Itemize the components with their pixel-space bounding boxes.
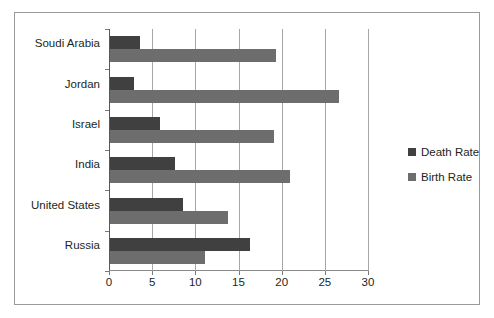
x-axis-tick: [109, 271, 110, 275]
y-axis-category-label: United States: [31, 199, 100, 211]
chart-frame: 051015202530 Soudi ArabiaJordanIsraelInd…: [14, 12, 480, 305]
bar: [110, 238, 250, 251]
legend-swatch-icon: [408, 148, 416, 156]
x-axis-tick-label: 0: [89, 276, 129, 288]
y-axis-line: [109, 29, 110, 271]
bar: [110, 211, 228, 224]
chart-legend: Death RateBirth Rate: [408, 146, 479, 196]
bar: [110, 251, 205, 264]
y-axis-category-label: Soudi Arabia: [35, 37, 100, 49]
y-axis-tick: [105, 69, 109, 70]
x-axis-tick: [368, 271, 369, 275]
x-axis-tick-label: 30: [348, 276, 388, 288]
legend-item[interactable]: Birth Rate: [408, 171, 479, 183]
y-axis-tick: [105, 110, 109, 111]
x-axis-tick-label: 25: [305, 276, 345, 288]
y-axis-category-label: Israel: [72, 118, 100, 130]
bar: [110, 198, 183, 211]
gridline: [152, 29, 153, 271]
x-axis-tick: [239, 271, 240, 275]
y-axis-category-label: India: [75, 158, 100, 170]
legend-item[interactable]: Death Rate: [408, 146, 479, 158]
legend-label: Death Rate: [421, 146, 479, 158]
x-axis-tick-label: 20: [262, 276, 302, 288]
bar: [110, 157, 175, 170]
bar: [110, 117, 160, 130]
x-axis-tick-label: 15: [219, 276, 259, 288]
legend-swatch-icon: [408, 173, 416, 181]
x-axis-tick: [152, 271, 153, 275]
bar: [110, 130, 274, 143]
gridline: [195, 29, 196, 271]
y-axis-tick: [105, 231, 109, 232]
bar: [110, 170, 290, 183]
bar: [110, 77, 134, 90]
x-axis-tick: [325, 271, 326, 275]
y-axis-tick: [105, 271, 109, 272]
gridline: [368, 29, 369, 271]
gridline: [325, 29, 326, 271]
x-axis-tick-label: 5: [132, 276, 172, 288]
x-axis-tick: [282, 271, 283, 275]
y-axis-category-label: Russia: [65, 239, 100, 251]
bar: [110, 49, 276, 62]
x-axis-tick-label: 10: [175, 276, 215, 288]
y-axis-tick: [105, 190, 109, 191]
bar: [110, 36, 140, 49]
y-axis-tick: [105, 29, 109, 30]
x-axis-tick: [195, 271, 196, 275]
legend-label: Birth Rate: [421, 171, 472, 183]
y-axis-tick: [105, 150, 109, 151]
gridline: [282, 29, 283, 271]
gridline: [239, 29, 240, 271]
bar: [110, 90, 339, 103]
plot-area: 051015202530 Soudi ArabiaJordanIsraelInd…: [109, 29, 368, 271]
y-axis-category-label: Jordan: [65, 78, 100, 90]
